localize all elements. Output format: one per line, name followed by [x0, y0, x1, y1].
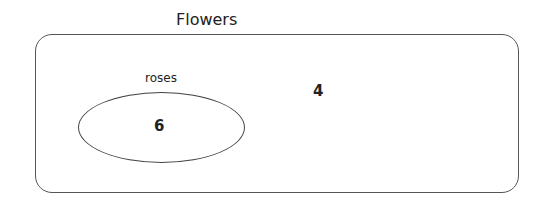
set-count-roses: 6 [154, 117, 164, 135]
set-label-roses: roses [145, 71, 177, 85]
universe-outside-count: 4 [313, 82, 323, 100]
universe-title: Flowers [176, 10, 237, 29]
